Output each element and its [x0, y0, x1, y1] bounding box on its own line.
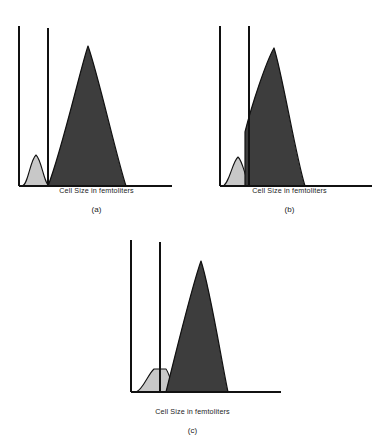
dark-peak-c [166, 261, 228, 392]
x-axis-label-b: Cell Size in femtoliters [193, 186, 386, 195]
x-axis-label-a: Cell Size in femtoliters [0, 186, 217, 195]
panel-a-plot [0, 0, 193, 200]
panel-c: Cell Size in femtoliters (c) [96, 225, 289, 441]
panel-b: Cell Size in femtoliters (b) [193, 0, 386, 220]
panel-a: Cell Size in femtoliters (a) [0, 0, 193, 220]
panel-b-plot [193, 0, 386, 200]
panel-c-plot [96, 225, 289, 421]
dark-peak-a [48, 46, 126, 186]
panel-label-a: (a) [0, 205, 193, 214]
panel-label-b: (b) [193, 205, 386, 214]
dark-peak-b [245, 48, 305, 186]
flow-cytometry-figure: Cell Size in femtoliters (a) Cell Size i… [0, 0, 386, 441]
x-axis-label-c: Cell Size in femtoliters [96, 407, 297, 416]
panel-label-c: (c) [96, 426, 289, 435]
light-peak-a [22, 155, 50, 186]
